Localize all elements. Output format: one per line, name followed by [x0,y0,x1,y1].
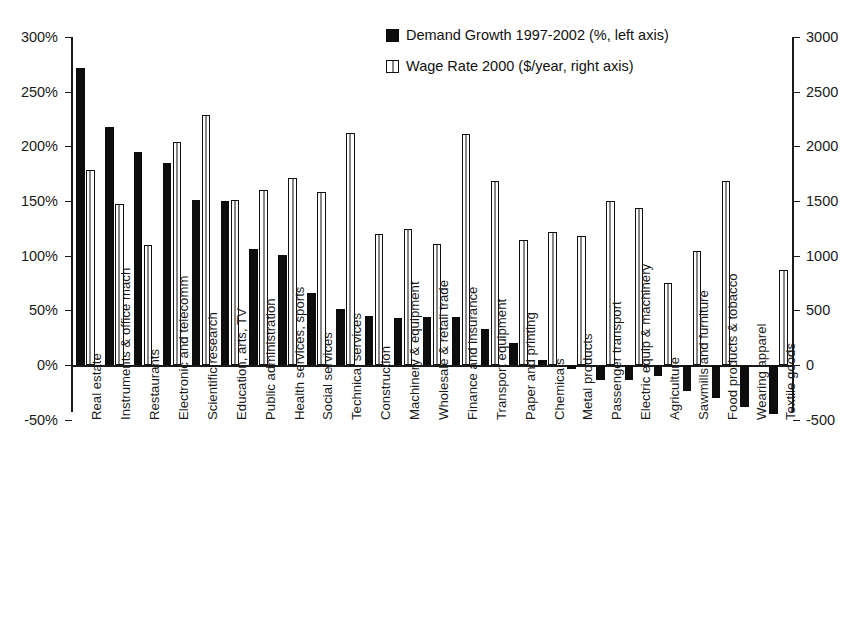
category-label: Finance and insurance [466,287,479,420]
bar-demand-growth [654,365,663,376]
right-axis-tick [793,92,800,93]
bar-demand-growth [105,127,114,365]
left-axis-tick-label: 200% [0,139,58,154]
category-label: Restaurants [148,349,161,420]
category-label: Wearing apparel [755,323,768,420]
category-label: Paper and printing [524,312,537,420]
category-label: Technical services [350,313,363,420]
left-axis-tick-label: 100% [0,249,58,264]
legend-swatch-hollow-icon [386,60,399,73]
legend-swatch-dark-icon [386,29,399,42]
left-axis-tick-label: 50% [0,303,58,318]
category-label: Machinery & equipment [408,281,421,420]
category-label: Sawmills and furniture [697,290,710,420]
category-label: Metal products [581,334,594,421]
chart-figure: 300%250%200%150%100%50%0%-50% 3000250020… [0,0,868,622]
bar-demand-growth [625,365,634,380]
bar-demand-growth [712,365,721,398]
bar-wage-rate [548,232,557,365]
bar-demand-growth [683,365,692,391]
bar-demand-growth [336,309,345,365]
right-axis-tick [793,37,800,38]
left-axis-tick [65,365,72,366]
bar-demand-growth [538,360,547,365]
right-axis-tick-label: 500 [806,303,830,318]
left-axis-tick-label: 250% [0,85,58,100]
left-axis-tick [65,420,72,421]
legend-label-wage-rate: Wage Rate 2000 ($/year, right axis) [406,58,634,74]
category-label: Wholesale & retail trade [437,280,450,420]
right-axis-tick [793,201,800,202]
bar-demand-growth [163,163,172,365]
legend-label-demand-growth: Demand Growth 1997-2002 (%, left axis) [406,27,669,43]
left-axis-tick-label: 150% [0,194,58,209]
legend-entry-demand-growth: Demand Growth 1997-2002 (%, left axis) [386,27,669,43]
category-label: Chemicals [553,358,566,420]
bar-demand-growth [365,316,374,365]
right-axis-tick-label: 3000 [806,30,838,45]
category-label: Agriculture [668,357,681,420]
category-label: Public administration [264,298,277,420]
category-label: Textile goods [784,343,797,420]
right-axis-tick-label: 1000 [806,249,838,264]
category-label: Social services [321,332,334,420]
bar-wage-rate [144,245,153,365]
right-axis-tick-label: -500 [806,413,835,428]
bar-demand-growth [740,365,749,407]
right-axis-tick-label: 2000 [806,139,838,154]
bar-demand-growth [423,317,432,365]
right-axis-tick [793,146,800,147]
right-axis-tick [793,256,800,257]
bar-demand-growth [567,365,576,369]
bar-demand-growth [221,201,230,365]
bar-demand-growth [249,249,258,365]
category-label: Construction [379,346,392,420]
left-axis-tick-label: -50% [0,413,58,428]
right-axis-tick-label: 1500 [806,194,838,209]
bar-demand-growth [76,68,85,365]
category-label: Education, arts, TV [235,308,248,420]
category-label: Electric equip & machinery [639,264,652,420]
category-label: Transport equipment [495,299,508,420]
category-label: Scientific research [206,312,219,420]
bar-demand-growth [452,317,461,365]
bar-demand-growth [509,343,518,365]
category-label: Instruments & office mach [119,268,132,420]
bar-demand-growth [307,293,316,365]
category-label: Real estate [90,353,103,420]
category-label: Food products & tobacco [726,273,739,420]
left-axis-tick-label: 0% [0,358,58,373]
category-label: Health services, sports [293,287,306,420]
legend-entry-wage-rate: Wage Rate 2000 ($/year, right axis) [386,58,634,74]
bar-demand-growth [481,329,490,365]
bar-demand-growth [394,318,403,365]
right-axis-tick-label: 2500 [806,85,838,100]
bar-demand-growth [192,200,201,365]
left-axis-tick-label: 300% [0,30,58,45]
right-axis-tick-label: 0 [806,358,814,373]
category-label: Passenger transport [610,301,623,420]
bar-demand-growth [769,365,778,414]
bar-wage-rate [664,283,673,365]
bar-demand-growth [278,255,287,365]
category-label: Electronic and telecomm [177,276,190,420]
bar-demand-growth [596,365,605,380]
right-axis-tick [793,310,800,311]
bar-demand-growth [134,152,143,365]
bar-wage-rate [86,170,95,365]
